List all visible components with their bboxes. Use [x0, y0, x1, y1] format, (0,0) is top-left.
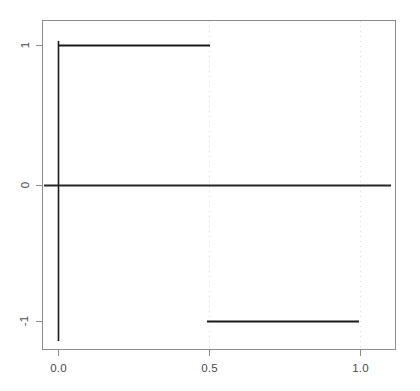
series-haar [44, 41, 391, 341]
chart-container: 1 0 -1 0.0 0.5 1.0 [0, 0, 420, 391]
x-axis-ticks [59, 350, 361, 356]
chart-canvas [0, 0, 420, 391]
y-axis-label-neg1: -1 [18, 310, 30, 332]
x-axis-label-0-5: 0.5 [189, 362, 230, 374]
y-axis-label-0: 0 [19, 175, 31, 195]
y-axis-ticks [36, 46, 42, 322]
y-axis-label-1: 1 [19, 35, 31, 55]
x-axis-label-1-0: 1.0 [340, 362, 381, 374]
x-axis-label-0-0: 0.0 [38, 362, 79, 374]
